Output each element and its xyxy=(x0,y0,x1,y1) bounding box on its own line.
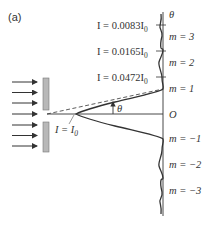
order-label-m2: m = 2 xyxy=(169,57,195,68)
order-label-m1: m = 1 xyxy=(169,83,194,94)
slit-barrier-top xyxy=(43,78,49,110)
central-label-leader xyxy=(69,115,74,124)
intensity-label-m1: I = 0.0472I0 xyxy=(97,72,148,86)
angle-theta-label: θ xyxy=(117,103,122,114)
order-label-m-neg2: m = −2 xyxy=(169,159,202,170)
dashed-ray-first-minimum xyxy=(47,89,163,114)
intensity-label-m2: I = 0.0165I0 xyxy=(97,46,148,60)
intensity-label-m3: I = 0.0083I0 xyxy=(97,20,148,34)
single-slit-diffraction-diagram: (a) θ I = I0 I = 0.0083I0 I = 0.0165I0 I… xyxy=(0,0,216,227)
origin-label: O xyxy=(169,109,177,120)
order-label-m-neg3: m = −3 xyxy=(169,185,201,196)
central-intensity-label: I = I0 xyxy=(54,124,78,138)
slit-barrier-bottom xyxy=(43,122,49,152)
theta-axis-label: θ xyxy=(169,9,174,20)
order-label-m3: m = 3 xyxy=(169,31,194,42)
order-label-m-neg1: m = −1 xyxy=(169,133,201,144)
incident-wave-arrows xyxy=(12,82,37,146)
panel-label: (a) xyxy=(8,11,21,23)
